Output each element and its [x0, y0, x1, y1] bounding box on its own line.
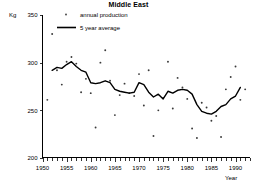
x-tick-label: 1975 [156, 165, 170, 171]
x-tick-label: 1950 [36, 165, 50, 171]
data-point [153, 135, 155, 137]
data-point [157, 109, 159, 111]
data-point [148, 69, 150, 71]
data-point [61, 84, 63, 86]
legend-label-five-year-average: 5 year average [80, 25, 121, 31]
data-point [220, 136, 222, 138]
annual-production-points [46, 33, 246, 139]
x-tick-label: 1955 [60, 165, 74, 171]
chart-page: Middle East 200250300350 195019551960196… [0, 0, 257, 189]
data-point [196, 137, 198, 139]
data-point [85, 78, 87, 80]
y-tick-label: 200 [27, 155, 38, 161]
data-point [239, 99, 241, 101]
x-axis-label: Year [225, 175, 237, 181]
data-point [119, 94, 121, 96]
data-point [167, 61, 169, 63]
data-point [99, 62, 101, 64]
data-point [177, 77, 179, 79]
data-point [95, 127, 97, 129]
data-point [56, 69, 58, 71]
data-point [75, 63, 77, 65]
x-tick-label: 1985 [205, 165, 219, 171]
data-point [124, 83, 126, 85]
data-point [172, 107, 174, 109]
legend-dot-icon [65, 14, 67, 16]
data-point [133, 95, 135, 97]
data-point [90, 92, 92, 94]
y-tick-label: 300 [27, 60, 38, 66]
data-point [114, 114, 116, 116]
data-point [225, 88, 227, 90]
x-tick-label: 1990 [229, 165, 243, 171]
data-point [181, 87, 183, 89]
data-point [230, 76, 232, 78]
data-point [186, 98, 188, 100]
x-tick-label: 1970 [132, 165, 146, 171]
data-point [138, 73, 140, 75]
legend-label-annual-production: annual production [80, 12, 128, 18]
data-point [104, 49, 106, 51]
data-point [191, 127, 193, 129]
data-point [71, 56, 73, 58]
legend: annual production 5 year average [57, 12, 128, 31]
y-axis-label: Kg [9, 12, 16, 18]
data-point [206, 107, 208, 109]
x-tick-group: 195019551960196519701975198019851990 [36, 158, 243, 171]
x-tick-label: 1960 [84, 165, 98, 171]
five-year-average-line [52, 62, 240, 114]
y-tick-label: 350 [27, 12, 38, 18]
data-point [244, 88, 246, 90]
data-point [235, 66, 237, 68]
y-tick-label: 250 [27, 108, 38, 114]
x-minor-tick-group [48, 158, 251, 161]
data-point [66, 61, 68, 63]
x-tick-label: 1980 [181, 165, 195, 171]
data-point [46, 99, 48, 101]
data-point [143, 105, 145, 107]
data-point [210, 120, 212, 122]
chart-plot-area: 200250300350 195019551960196519701975198… [0, 0, 257, 189]
data-point [215, 115, 217, 117]
data-point [80, 91, 82, 93]
y-tick-group: 200250300350 [27, 12, 42, 161]
data-point [201, 102, 203, 104]
data-point [51, 33, 53, 35]
data-point [109, 80, 111, 82]
x-tick-label: 1965 [108, 165, 122, 171]
